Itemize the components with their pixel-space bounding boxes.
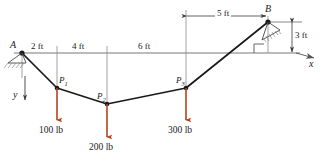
label-node-p3: P3 bbox=[176, 76, 185, 87]
label-dim-5ft: 5 ft bbox=[215, 9, 231, 18]
support-b bbox=[262, 19, 281, 42]
load-arrows bbox=[57, 88, 186, 137]
label-load-200lb: 200 lb bbox=[89, 143, 113, 153]
node-markers bbox=[55, 86, 189, 107]
figure-root: A B P1 P2 P3 2 ft 4 ft 6 ft 5 ft 3 ft 10… bbox=[0, 0, 322, 165]
label-dim-4ft: 4 ft bbox=[72, 42, 84, 51]
label-node-p2: P2 bbox=[97, 92, 106, 103]
label-x-axis: x bbox=[309, 59, 313, 69]
cable bbox=[22, 22, 268, 104]
label-point-b: B bbox=[265, 4, 271, 14]
label-y-axis: y bbox=[13, 90, 17, 100]
cable-diagram-svg bbox=[0, 0, 322, 165]
label-dim-3ft: 3 ft bbox=[295, 31, 307, 40]
label-node-p1: P1 bbox=[59, 76, 68, 87]
label-dim-2ft: 2 ft bbox=[31, 42, 43, 51]
label-node-p3-sub: 3 bbox=[182, 80, 185, 87]
label-node-p1-sub: 1 bbox=[65, 80, 68, 87]
label-dim-6ft: 6 ft bbox=[138, 42, 150, 51]
label-point-a: A bbox=[10, 40, 16, 50]
label-load-300lb: 300 lb bbox=[168, 126, 192, 136]
label-node-p2-sub: 2 bbox=[103, 96, 106, 103]
label-load-100lb: 100 lb bbox=[39, 126, 63, 136]
right-angle-marker bbox=[254, 44, 264, 53]
